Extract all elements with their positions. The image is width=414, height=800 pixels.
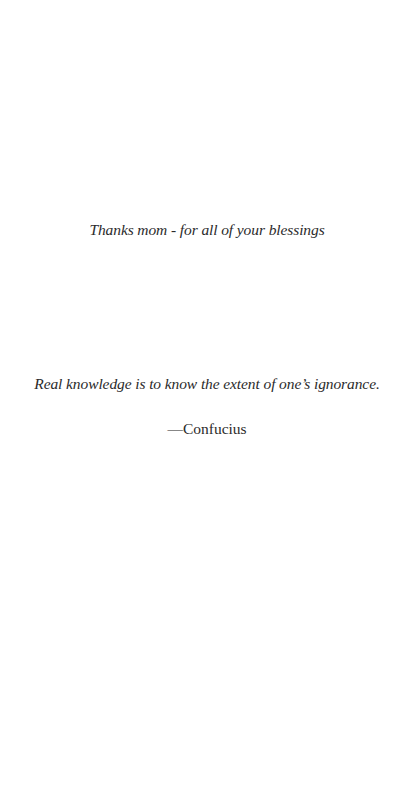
book-page: Thanks mom - for all of your blessings R… xyxy=(0,0,414,800)
epigraph-quote: Real knowledge is to know the extent of … xyxy=(0,374,414,394)
dedication-text: Thanks mom - for all of your blessings xyxy=(0,220,414,240)
epigraph-attribution: —Confucius xyxy=(0,419,414,439)
